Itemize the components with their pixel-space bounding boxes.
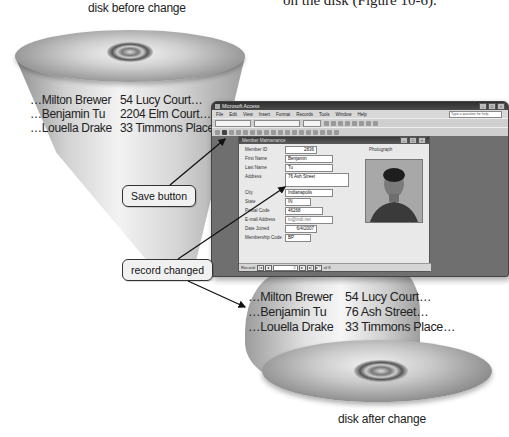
record-name: …Benjamin Tu xyxy=(248,305,333,320)
menu-insert[interactable]: Insert xyxy=(259,112,270,117)
next-record-button[interactable]: ▸ xyxy=(299,265,306,271)
last-name-field[interactable]: Tu xyxy=(285,164,333,172)
last-record-button[interactable]: ▸| xyxy=(307,265,314,271)
label-date-joined: Date Joined xyxy=(245,226,269,231)
align-center-icon[interactable] xyxy=(352,121,357,126)
search-icon[interactable] xyxy=(229,130,234,135)
record-nav-label: Record: xyxy=(241,265,256,270)
print-icon[interactable] xyxy=(236,130,241,135)
record-address: 33 Timmons Place… xyxy=(345,320,455,335)
menu-file[interactable]: File xyxy=(216,112,223,117)
new-record-button[interactable]: ▸* xyxy=(315,265,322,271)
email-field[interactable]: tu@indi.net xyxy=(285,216,333,224)
disk-before-icon xyxy=(15,30,245,82)
maximize-button[interactable]: □ xyxy=(488,103,496,110)
bold-icon[interactable] xyxy=(324,121,329,126)
filter-icon[interactable] xyxy=(299,130,304,135)
previous-record-button[interactable]: ◂ xyxy=(265,265,272,271)
delete-record-icon[interactable] xyxy=(320,130,325,135)
copy-icon[interactable] xyxy=(264,130,269,135)
date-joined-field[interactable]: 6/4/2007 xyxy=(285,225,317,233)
menu-help[interactable]: Help xyxy=(358,112,367,117)
label-first-name: First Name xyxy=(245,156,267,161)
font-dropdown[interactable] xyxy=(254,120,300,127)
sort-ascending-icon[interactable] xyxy=(285,130,290,135)
caption-disk-after: disk after change xyxy=(338,412,426,426)
record-name: …Milton Brewer xyxy=(30,93,112,107)
menubar: File Edit View Insert Format Records Too… xyxy=(212,110,508,118)
close-button[interactable]: × xyxy=(497,103,505,110)
formatting-toolbar xyxy=(212,118,508,127)
current-record-field[interactable]: 2 xyxy=(273,265,298,271)
disk-hub-icon xyxy=(354,360,408,382)
membership-code-field[interactable]: BP xyxy=(285,234,311,242)
record-name: …Milton Brewer xyxy=(248,290,333,305)
font-color-icon[interactable] xyxy=(373,121,378,126)
print-preview-icon[interactable] xyxy=(243,130,248,135)
first-record-button[interactable]: |◂ xyxy=(257,265,264,271)
record-name: …Louella Drake xyxy=(248,320,333,335)
help-icon[interactable] xyxy=(334,130,339,135)
callout-save-button: Save button xyxy=(122,185,196,207)
spelling-icon[interactable] xyxy=(250,130,255,135)
record-address: 54 Lucy Court… xyxy=(345,290,455,305)
new-record-icon[interactable] xyxy=(313,130,318,135)
form-titlebar: Member Maintenance – □ × xyxy=(239,137,429,144)
form-maximize-button[interactable]: □ xyxy=(409,137,417,144)
titlebar: Microsoft Access – □ × xyxy=(212,102,508,110)
fill-color-icon[interactable] xyxy=(366,121,371,126)
font-size-dropdown[interactable] xyxy=(303,120,321,127)
member-photo xyxy=(365,159,423,223)
disk-after-addresses: 54 Lucy Court… 76 Ash Street… 33 Timmons… xyxy=(345,290,455,335)
arrow-to-changed-record xyxy=(188,281,245,307)
record-address: 33 Timmons Place… xyxy=(120,121,226,135)
database-window-icon[interactable] xyxy=(327,130,332,135)
align-left-icon[interactable] xyxy=(345,121,350,126)
disk-before-addresses: 54 Lucy Court… 2204 Elm Court… 33 Timmon… xyxy=(120,93,226,135)
callout-record-changed: record changed xyxy=(122,259,213,281)
paste-icon[interactable] xyxy=(271,130,276,135)
record-address: 54 Lucy Court… xyxy=(120,93,226,107)
record-total: of 8 xyxy=(324,265,331,270)
sort-descending-icon[interactable] xyxy=(292,130,297,135)
person-photo-icon xyxy=(366,160,422,222)
city-field[interactable]: Indianapolis xyxy=(285,189,333,197)
cut-icon[interactable] xyxy=(257,130,262,135)
record-name: …Benjamin Tu xyxy=(30,107,112,121)
view-icon[interactable] xyxy=(215,130,220,135)
save-icon[interactable] xyxy=(222,130,227,135)
form-close-button[interactable]: × xyxy=(418,137,426,144)
first-name-field[interactable]: Benjamin xyxy=(285,155,333,163)
label-membership-code: Membership Code xyxy=(245,235,282,240)
label-postal-code: Postal Code xyxy=(245,208,270,213)
state-field[interactable]: IN xyxy=(285,198,311,206)
disk-after-icon xyxy=(262,340,492,402)
menu-tools[interactable]: Tools xyxy=(319,112,330,117)
label-state: State xyxy=(245,199,256,204)
form-minimize-button[interactable]: – xyxy=(400,137,408,144)
member-id-field[interactable]: 2836 xyxy=(285,146,317,154)
menu-records[interactable]: Records xyxy=(296,112,313,117)
undo-icon[interactable] xyxy=(278,130,283,135)
minimize-button[interactable]: – xyxy=(479,103,487,110)
member-maintenance-form: Member Maintenance – □ × Member ID 2836 … xyxy=(238,136,430,272)
align-right-icon[interactable] xyxy=(359,121,364,126)
record-address: 76 Ash Street… xyxy=(345,305,455,320)
find-icon[interactable] xyxy=(306,130,311,135)
help-search-input[interactable]: Type a question for help xyxy=(449,111,502,118)
menu-format[interactable]: Format xyxy=(276,112,290,117)
address-field[interactable]: 76 Ash Street xyxy=(285,173,349,187)
menu-view[interactable]: View xyxy=(243,112,253,117)
photo-label: Photograph xyxy=(369,147,392,152)
form-title: Member Maintenance xyxy=(242,138,286,143)
object-dropdown[interactable] xyxy=(215,120,251,127)
menu-edit[interactable]: Edit xyxy=(229,112,237,117)
access-window: Microsoft Access – □ × File Edit View In… xyxy=(211,101,509,277)
postal-code-field[interactable]: 46268 xyxy=(285,207,323,215)
form-view-toolbar xyxy=(212,127,508,136)
menu-window[interactable]: Window xyxy=(336,112,352,117)
disk-hub-icon xyxy=(107,42,153,62)
italic-icon[interactable] xyxy=(331,121,336,126)
app-icon xyxy=(215,104,220,109)
underline-icon[interactable] xyxy=(338,121,343,126)
